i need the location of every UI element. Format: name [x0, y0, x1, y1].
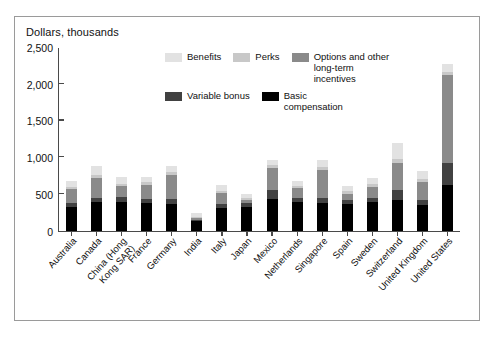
legend-label: Variable bonus	[187, 91, 250, 102]
legend-row-1: BenefitsPerksOptions and other long-term…	[165, 52, 405, 85]
stacked-bar[interactable]	[216, 185, 227, 231]
legend-swatch	[233, 53, 250, 62]
bar-segment	[191, 221, 202, 231]
bar-segment	[342, 194, 353, 201]
legend-swatch	[165, 53, 182, 62]
stacked-bar[interactable]	[317, 160, 328, 231]
y-tick-label: 1,000	[27, 153, 59, 164]
bar-segment	[166, 175, 177, 199]
bar-segment	[267, 190, 278, 200]
bar-segment	[392, 200, 403, 231]
legend-item: Options and other long-term incentives	[292, 52, 393, 85]
bar-segment	[292, 202, 303, 231]
bar-segment	[91, 178, 102, 198]
bar-segment	[392, 143, 403, 159]
bar-segment	[367, 202, 378, 231]
bar-segment	[442, 64, 453, 72]
bar-segment	[66, 207, 77, 231]
bar-segment	[442, 75, 453, 163]
legend-row-2: Variable bonusBasic compensation	[165, 91, 405, 113]
y-tick-label: 500	[35, 189, 59, 200]
bar-segment	[116, 202, 127, 231]
bar-segment	[216, 208, 227, 231]
bar-slot	[435, 48, 460, 231]
bar-segment	[392, 163, 403, 189]
bar-segment	[417, 205, 428, 231]
bar-segment	[442, 185, 453, 231]
legend-label: Options and other long-term incentives	[314, 52, 393, 85]
stacked-bar[interactable]	[91, 166, 102, 231]
bar-segment	[267, 199, 278, 231]
legend-item: Perks	[233, 52, 279, 63]
bar-slot	[410, 48, 435, 231]
figure-container: Dollars, thousands 05001,0001,5002,0002,…	[0, 0, 498, 338]
bar-segment	[317, 170, 328, 198]
legend-swatch	[165, 92, 182, 101]
bar-slot	[84, 48, 109, 231]
chart-legend: BenefitsPerksOptions and other long-term…	[165, 52, 405, 119]
bar-segment	[317, 203, 328, 231]
y-axis-title: Dollars, thousands	[26, 26, 119, 38]
legend-item: Basic compensation	[262, 91, 343, 113]
stacked-bar[interactable]	[367, 178, 378, 231]
bar-segment	[417, 182, 428, 200]
y-tick-label: 2,000	[27, 79, 59, 90]
bar-segment	[116, 177, 127, 184]
stacked-bar[interactable]	[66, 181, 77, 231]
bar-segment	[292, 188, 303, 198]
bar-segment	[166, 204, 177, 231]
bar-slot	[109, 48, 134, 231]
stacked-bar[interactable]	[241, 194, 252, 231]
legend-label: Benefits	[187, 52, 221, 63]
bar-segment	[241, 207, 252, 231]
x-tick-mark	[171, 231, 172, 236]
y-tick-label: 2,500	[27, 42, 59, 53]
bar-segment	[317, 160, 328, 167]
bar-segment	[417, 171, 428, 179]
x-tick-mark	[246, 231, 247, 236]
bar-segment	[267, 168, 278, 190]
legend-label: Basic compensation	[284, 91, 343, 113]
bar-segment	[342, 204, 353, 231]
legend-item: Benefits	[165, 52, 221, 63]
stacked-bar[interactable]	[166, 166, 177, 231]
bar-slot	[134, 48, 159, 231]
bar-segment	[66, 189, 77, 202]
bar-slot	[59, 48, 84, 231]
stacked-bar[interactable]	[392, 143, 403, 231]
legend-item: Variable bonus	[165, 91, 250, 102]
bar-segment	[392, 190, 403, 200]
stacked-bar[interactable]	[191, 213, 202, 231]
bar-segment	[442, 163, 453, 185]
y-tick-label: 0	[47, 226, 59, 237]
y-tick-label: 1,500	[27, 116, 59, 127]
bar-segment	[216, 193, 227, 204]
bar-segment	[367, 187, 378, 198]
stacked-bar[interactable]	[116, 177, 127, 231]
stacked-bar[interactable]	[417, 171, 428, 231]
bar-segment	[141, 185, 152, 200]
bar-segment	[91, 202, 102, 231]
bar-segment	[116, 186, 127, 197]
stacked-bar[interactable]	[267, 160, 278, 231]
legend-swatch	[262, 92, 279, 101]
stacked-bar[interactable]	[292, 181, 303, 231]
legend-label: Perks	[255, 52, 279, 63]
stacked-bar[interactable]	[141, 177, 152, 231]
legend-swatch	[292, 53, 309, 62]
bar-segment	[141, 203, 152, 231]
x-tick-mark	[146, 231, 147, 236]
stacked-bar[interactable]	[342, 186, 353, 231]
bar-segment	[91, 166, 102, 175]
x-tick-mark	[221, 231, 222, 236]
stacked-bar[interactable]	[442, 64, 453, 231]
